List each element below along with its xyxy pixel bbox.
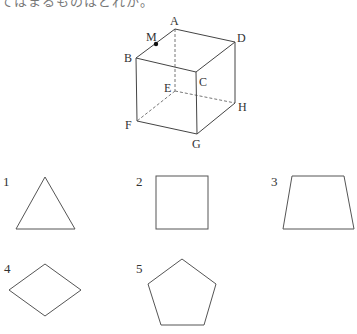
rhombus-shape	[9, 264, 81, 316]
triangle-shape	[16, 177, 75, 229]
edge-FG	[137, 121, 197, 134]
cube-figure: A M B D C E H F G	[124, 14, 247, 151]
option-2[interactable]: 2	[136, 174, 208, 229]
option-4[interactable]: 4	[4, 261, 81, 316]
square-shape	[156, 176, 208, 229]
option-4-number: 4	[4, 261, 11, 276]
edge-GH	[197, 103, 235, 134]
label-M: M	[146, 30, 157, 44]
label-G: G	[192, 137, 201, 151]
label-C: C	[199, 75, 207, 89]
option-2-number: 2	[136, 174, 143, 189]
label-B: B	[124, 51, 132, 65]
label-A: A	[170, 14, 179, 28]
edge-EH	[175, 91, 235, 103]
label-D: D	[237, 31, 246, 45]
edge-CG	[196, 72, 197, 134]
pentagon-shape	[148, 259, 216, 325]
label-E: E	[164, 81, 171, 95]
edge-BF	[136, 58, 137, 121]
option-1[interactable]: 1	[3, 174, 75, 229]
edge-EF	[137, 91, 175, 121]
figure-canvas: A M B D C E H F G 1 2 3 4 5	[0, 0, 357, 334]
option-1-number: 1	[3, 174, 10, 189]
label-H: H	[238, 100, 247, 114]
option-5[interactable]: 5	[136, 259, 216, 325]
trapezoid-shape	[283, 176, 354, 229]
label-F: F	[125, 118, 132, 132]
option-3[interactable]: 3	[271, 174, 354, 229]
option-3-number: 3	[271, 174, 278, 189]
option-5-number: 5	[136, 261, 143, 276]
